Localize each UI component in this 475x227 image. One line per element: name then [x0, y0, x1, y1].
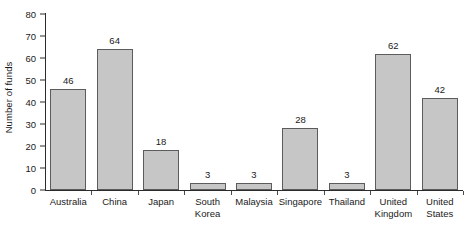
- bar-value-label: 64: [95, 35, 135, 46]
- x-axis-category-label: Japan: [138, 196, 184, 208]
- plot-area: 80706050403020100 466418332836242 Austra…: [0, 0, 475, 227]
- y-axis-tick-mark: [40, 36, 45, 37]
- y-axis-tick-mark: [40, 14, 45, 15]
- y-axis-tick-label: 60: [12, 53, 36, 64]
- bar: [375, 54, 411, 190]
- x-axis-category-label: United Kingdom: [370, 196, 416, 219]
- y-axis-tick-mark: [40, 102, 45, 103]
- x-axis-tick-mark: [231, 191, 232, 195]
- x-axis-category-label: United States: [417, 196, 463, 219]
- y-axis-tick-label: 30: [12, 119, 36, 130]
- x-axis-tick-mark: [184, 191, 185, 195]
- bar: [97, 49, 133, 190]
- x-axis-category-label: Thailand: [324, 196, 370, 208]
- x-axis-category-label: South Korea: [184, 196, 230, 219]
- y-axis-tick-mark: [40, 146, 45, 147]
- bar: [190, 183, 226, 190]
- x-axis-tick-mark: [417, 191, 418, 195]
- y-axis-tick-label: 40: [12, 97, 36, 108]
- y-axis-tick-label: 10: [12, 163, 36, 174]
- x-axis-category-label: Australia: [45, 196, 91, 208]
- x-axis-tick-mark: [277, 191, 278, 195]
- y-axis-tick-mark: [40, 168, 45, 169]
- x-axis-tick-mark: [370, 191, 371, 195]
- y-axis-tick-mark: [40, 80, 45, 81]
- bar-value-label: 28: [280, 114, 320, 125]
- y-axis-tick-label: 50: [12, 75, 36, 86]
- y-axis-tick-label: 20: [12, 141, 36, 152]
- y-axis-tick-mark: [40, 58, 45, 59]
- bar-value-label: 3: [188, 169, 228, 180]
- y-axis-tick-label: 70: [12, 31, 36, 42]
- x-axis-tick-mark: [463, 191, 464, 195]
- x-axis-line: [45, 190, 463, 191]
- y-axis-line: [45, 13, 46, 191]
- y-axis-tick-label: 80: [12, 9, 36, 20]
- bar: [143, 150, 179, 190]
- bar-value-label: 46: [48, 75, 88, 86]
- bar: [50, 89, 86, 190]
- bar-value-label: 42: [420, 84, 460, 95]
- x-axis-tick-mark: [91, 191, 92, 195]
- x-axis-category-label: Singapore: [277, 196, 323, 208]
- y-axis-tick-mark: [40, 124, 45, 125]
- bar-value-label: 3: [327, 169, 367, 180]
- y-axis-tick-mark: [40, 190, 45, 191]
- x-axis-tick-mark: [138, 191, 139, 195]
- bar-value-label: 62: [373, 40, 413, 51]
- bar-value-label: 3: [234, 169, 274, 180]
- x-axis-category-label: China: [91, 196, 137, 208]
- y-axis-tick-label: 0: [12, 185, 36, 196]
- bar: [282, 128, 318, 190]
- bar-chart: Number of funds 80706050403020100 466418…: [0, 0, 475, 227]
- bar: [329, 183, 365, 190]
- bar: [422, 98, 458, 190]
- bar: [236, 183, 272, 190]
- x-axis-category-label: Malaysia: [231, 196, 277, 208]
- x-axis-tick-mark: [324, 191, 325, 195]
- bar-value-label: 18: [141, 136, 181, 147]
